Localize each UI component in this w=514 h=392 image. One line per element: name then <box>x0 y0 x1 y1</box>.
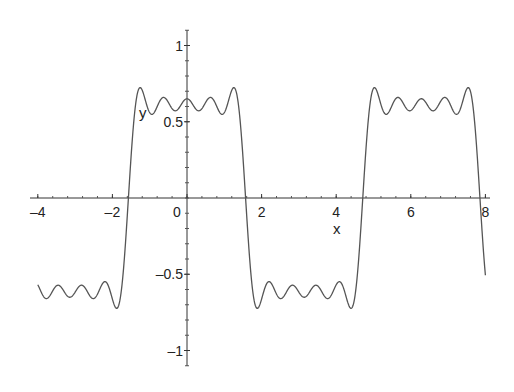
fourier-plot: –4–202468 10.5–0.5–1 x y <box>0 0 514 392</box>
x-tick-label: –4 <box>30 204 46 220</box>
y-tick-label: 0.5 <box>164 114 184 130</box>
y-axis-label: y <box>139 104 147 121</box>
x-tick-label: 2 <box>258 204 266 220</box>
x-axis-label: x <box>333 220 341 237</box>
x-tick-label: –2 <box>105 204 121 220</box>
y-tick-label: –0.5 <box>156 266 183 282</box>
axes: –4–202468 10.5–0.5–1 x y <box>30 30 490 366</box>
x-tick-label: 8 <box>482 204 490 220</box>
x-tick-label: 6 <box>407 204 415 220</box>
x-tick-label: 0 <box>173 204 181 220</box>
x-tick-label: 4 <box>332 204 340 220</box>
y-tick-label: 1 <box>175 38 183 54</box>
y-tick-label: –1 <box>167 343 183 359</box>
